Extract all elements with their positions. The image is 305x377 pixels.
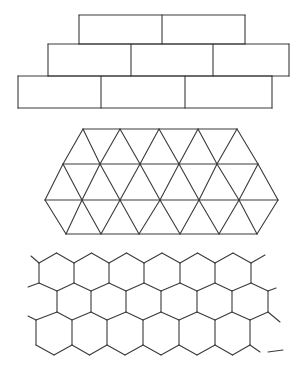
triangle-edge xyxy=(258,164,278,200)
hexagon-edge xyxy=(144,283,161,291)
hexagon-edge xyxy=(91,283,109,291)
hexagon-edge xyxy=(127,253,145,263)
triangle-edge xyxy=(239,164,258,200)
hexagon-edge xyxy=(198,253,216,263)
hexagon-edge xyxy=(233,253,251,263)
triangle-edge xyxy=(239,200,257,234)
tiling-illustration xyxy=(0,0,305,377)
triangle-edge xyxy=(82,200,101,234)
hexagon-edge xyxy=(161,283,180,291)
triangle-edge xyxy=(160,200,180,234)
hexagon-edge xyxy=(250,312,268,320)
tiling-diagram xyxy=(0,0,305,377)
triangle-edge xyxy=(100,129,120,164)
triangle-edge xyxy=(140,129,159,164)
triangle-edge xyxy=(198,129,217,164)
hexagon-edge xyxy=(126,312,143,320)
hexagon-edge xyxy=(143,345,161,355)
triangle-edge xyxy=(45,164,63,200)
hexagon-edge xyxy=(54,345,72,355)
hexagon-edge xyxy=(57,253,75,263)
hexagon-edge xyxy=(36,345,54,355)
hexagon-edge xyxy=(233,345,251,355)
triangle-edge xyxy=(237,129,258,164)
hexagon-stub xyxy=(28,316,36,320)
hexagon-edge xyxy=(74,283,91,291)
triangle-edge xyxy=(180,200,199,234)
hexagon-edge xyxy=(179,345,197,355)
triangle-edge xyxy=(66,200,82,234)
hexagon-edge xyxy=(161,345,179,355)
hexagon-edge xyxy=(36,312,57,320)
triangle-edge xyxy=(100,164,120,200)
triangle-edge xyxy=(257,200,278,234)
hexagon-stub xyxy=(250,345,260,352)
hexagon-edge xyxy=(109,283,126,291)
hexagon-stub xyxy=(28,283,39,287)
triangle-edge xyxy=(120,164,140,200)
hexagon-edge xyxy=(72,312,91,320)
triangle-edge xyxy=(120,129,140,164)
hexagon-edge xyxy=(215,283,232,291)
triangle-edge xyxy=(160,164,179,200)
hexagon-stub xyxy=(31,256,39,263)
hexagon-edge xyxy=(109,253,127,263)
triangle-edge xyxy=(139,200,160,234)
triangle-edge xyxy=(83,129,100,164)
hexagon-edge xyxy=(197,283,215,291)
hexagon-edge xyxy=(143,312,161,320)
hexagon-edge xyxy=(39,253,57,263)
triangle-edge xyxy=(179,164,199,200)
hexagon-edge xyxy=(161,312,179,320)
hexagon-edge xyxy=(162,253,180,263)
hexagon-edge xyxy=(74,253,92,263)
triangle-edge xyxy=(120,200,139,234)
triangle-edge xyxy=(45,200,66,234)
hexagon-stub xyxy=(268,312,280,322)
hexagon-edge xyxy=(72,345,90,355)
triangle-edge xyxy=(217,129,237,164)
hexagon-edge xyxy=(107,345,125,355)
triangle-edge xyxy=(140,164,160,200)
hexagon-stub xyxy=(268,350,283,352)
hexagon-edge xyxy=(180,283,197,291)
hexagon-edge xyxy=(215,253,233,263)
hexagon-edge xyxy=(215,345,233,355)
triangle-edge xyxy=(219,200,239,234)
hexagon-edge xyxy=(179,312,197,320)
hexagon-edge xyxy=(57,283,74,291)
hexagon-edge xyxy=(39,283,57,291)
triangle-edge xyxy=(217,164,239,200)
hexagon-edge xyxy=(107,312,126,320)
hexagon-edge xyxy=(144,253,162,263)
brick-tiling xyxy=(18,15,289,108)
hexagon-stub xyxy=(251,255,265,263)
hexagon-edge xyxy=(92,253,110,263)
triangle-edge xyxy=(199,200,219,234)
hexagon-edge xyxy=(91,312,107,320)
triangle-edge xyxy=(63,164,82,200)
hexagon-edge xyxy=(251,283,268,291)
hexagon-edge xyxy=(215,312,232,320)
hexagon-edge xyxy=(90,345,108,355)
hexagon-edge xyxy=(57,312,72,320)
hexagon-edge xyxy=(126,283,144,291)
hexagon-edge xyxy=(232,312,250,320)
triangle-tiling xyxy=(45,129,278,234)
triangle-edge xyxy=(159,129,179,164)
hexagon-edge xyxy=(197,345,215,355)
hexagon-stub xyxy=(268,288,276,291)
triangle-edge xyxy=(63,129,83,164)
hexagon-edge xyxy=(125,345,143,355)
hexagon-edge xyxy=(232,283,251,291)
triangle-edge xyxy=(82,164,100,200)
triangle-edge xyxy=(199,164,217,200)
hexagon-edge xyxy=(197,312,215,320)
triangle-edge xyxy=(101,200,120,234)
hexagon-tiling xyxy=(28,253,283,355)
hexagon-edge xyxy=(180,253,198,263)
triangle-edge xyxy=(179,129,198,164)
